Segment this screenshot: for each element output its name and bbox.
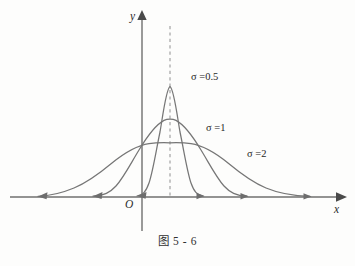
curve-sigma-2 (38, 143, 310, 197)
curve-label-sigma-2: σ =2 (247, 149, 266, 160)
curve-label-sigma-1: σ =1 (206, 123, 225, 134)
curve-sigma-2-right-arrowhead (304, 193, 312, 199)
curve-label-sigma-05: σ =0.5 (191, 72, 218, 83)
curve-sigma-2-group (38, 143, 312, 200)
normal-distribution-plot (0, 0, 355, 266)
y-axis-arrowhead (137, 10, 146, 20)
curve-sigma-05-right-arrowhead (197, 193, 205, 199)
figure-container: y x O σ =0.5 σ =1 σ =2 图 5 - 6 (0, 0, 355, 266)
y-axis-label: y (130, 11, 135, 23)
x-axis-arrowhead (336, 192, 347, 202)
origin-label: O (125, 199, 133, 211)
curve-sigma-1-right-arrowhead (241, 193, 249, 199)
x-axis-label: x (334, 204, 339, 216)
figure-caption: 图 5 - 6 (0, 236, 355, 248)
